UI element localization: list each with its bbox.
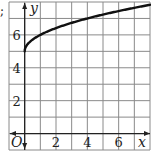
svg-text:2: 2 xyxy=(12,94,20,109)
svg-text:4: 4 xyxy=(12,61,20,76)
origin-label: O xyxy=(11,134,23,150)
tick-labels: 246246 xyxy=(12,28,122,150)
x-axis-label: x xyxy=(138,134,146,150)
axes xyxy=(10,3,150,150)
y-axis-label: y xyxy=(29,0,39,16)
svg-text:6: 6 xyxy=(12,28,20,43)
svg-text:2: 2 xyxy=(52,135,60,150)
svg-text:4: 4 xyxy=(83,135,91,150)
svg-text:6: 6 xyxy=(115,135,123,150)
grid xyxy=(9,2,150,150)
chart: y x O 246246 xyxy=(0,0,151,152)
